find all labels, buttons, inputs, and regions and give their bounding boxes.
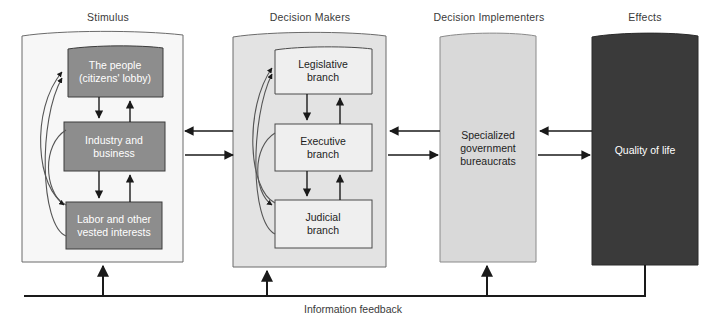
column-label-decision-implementers: Decision Implementers (434, 11, 545, 23)
legislative-branch-box (275, 47, 372, 94)
decisionmakers-implementers-connectors (388, 131, 440, 155)
judicial-branch-box (275, 200, 372, 248)
the-people-box (68, 46, 163, 97)
column-label-effects: Effects (628, 11, 661, 23)
policy-system-diagram (0, 0, 706, 322)
specialized-government-bureaucrats-box (440, 33, 536, 262)
labor-and-other-vested-interests-box (66, 202, 162, 249)
information-feedback-label: Information feedback (304, 303, 402, 315)
column-label-stimulus: Stimulus (87, 11, 129, 23)
diagram-canvas: Stimulus Decision Makers Decision Implem… (0, 0, 706, 322)
information-feedback-path (24, 265, 645, 296)
implementers-effects-connectors (538, 131, 592, 155)
stimulus-decisionmakers-connectors (185, 131, 233, 155)
industry-and-business-box (64, 122, 165, 171)
executive-branch-box (275, 124, 372, 171)
column-label-decision-makers: Decision Makers (270, 11, 351, 23)
quality-of-life-box (592, 33, 698, 265)
